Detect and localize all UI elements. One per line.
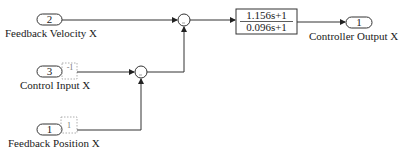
sum-block-1[interactable]: [178, 14, 190, 26]
inport-1-label: Feedback Position X: [8, 137, 100, 149]
conversion-tag-3-text: -1: [64, 62, 76, 73]
signal-line-sum2-out[interactable]: [147, 27, 184, 72]
tf-denominator: 0.096s+1: [236, 22, 297, 33]
tf-numerator: 1.156s+1: [236, 10, 297, 21]
inport-2-number: 2: [37, 14, 62, 25]
outport-1-number: 1: [346, 17, 372, 28]
inport-1-number: 1: [37, 124, 62, 135]
sum-block-2[interactable]: [135, 66, 147, 78]
outport-1-label: Controller Output X: [309, 30, 398, 42]
conversion-tag-1-text: 1: [63, 120, 75, 131]
inport-3-number: 3: [37, 66, 62, 77]
inport-3-label: Control Input X: [20, 79, 90, 91]
inport-2-label: Feedback Velocity X: [5, 27, 97, 39]
